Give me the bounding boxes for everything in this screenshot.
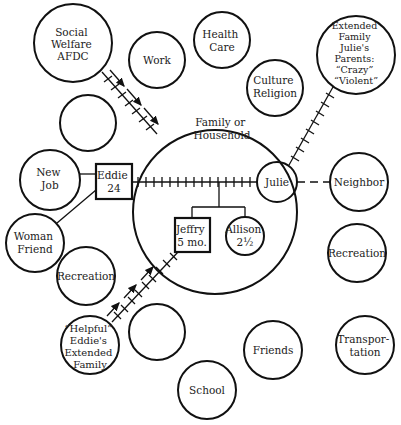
jeffry-label: Jeffry 5 mo. [175, 223, 208, 248]
empty-system-circle [129, 304, 185, 360]
eddies-family-label: “Helpful” Eddie's Extended Family [64, 323, 115, 370]
ecomap-diagram: Family or Household Eddie 24 Julie Jeffr… [0, 0, 401, 425]
children-connector [192, 182, 245, 218]
arrow-icon [124, 285, 136, 298]
transportation-label: Transpor- tation [337, 333, 392, 358]
eddies-family-connection [112, 252, 178, 322]
woman-friend-label: Woman Friend [14, 230, 57, 255]
neighbor-label: Neighbor [334, 176, 385, 188]
friends-label: Friends [253, 344, 294, 356]
work-label: Work [143, 54, 171, 66]
transportation-circle [336, 316, 394, 374]
recreation-right-label: Recreation [328, 247, 386, 259]
julies-parents-label: Extended Family Julie's Parents: “Crazy”… [332, 20, 381, 86]
school-label: School [189, 384, 225, 396]
social-welfare-label: Social Welfare AFDC [51, 26, 95, 62]
health-care-circle [194, 12, 250, 68]
culture-religion-label: Culture Religion [253, 74, 297, 99]
allison-label: Allison 2½ [224, 223, 264, 248]
julie-label: Julie [264, 176, 289, 188]
recreation-left-label: Recreation [57, 270, 115, 282]
health-care-label: Health Care [202, 28, 241, 53]
household-label: Family or Household [193, 116, 250, 141]
new-job-label: New Job [36, 166, 64, 191]
arrow-icon [107, 303, 119, 316]
empty-system-circle [60, 95, 116, 151]
